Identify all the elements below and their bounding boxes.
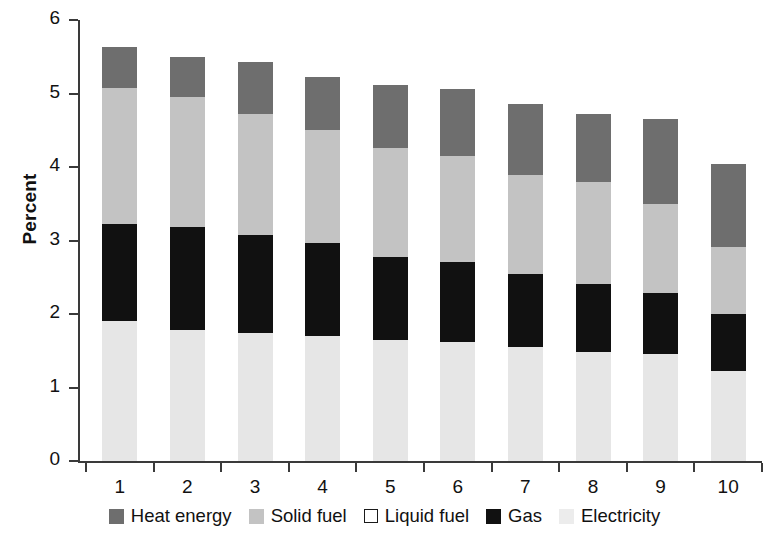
bar-segment-gas[interactable] — [643, 293, 678, 355]
y-axis-tick-label: 6 — [26, 7, 60, 29]
bar-segment-heat-energy[interactable] — [576, 114, 611, 182]
x-axis-tick — [220, 463, 222, 472]
bar-segment-electricity[interactable] — [508, 347, 543, 461]
bar-segment-electricity[interactable] — [643, 354, 678, 461]
x-axis-tick-label: 7 — [520, 476, 531, 498]
stacked-bar[interactable] — [305, 77, 340, 461]
bar-segment-solid-fuel[interactable] — [373, 148, 408, 257]
x-axis-tick — [355, 463, 357, 472]
bar-segment-solid-fuel[interactable] — [576, 182, 611, 283]
x-axis-tick — [491, 463, 493, 472]
y-axis-tick — [69, 240, 78, 242]
bar-segment-heat-energy[interactable] — [440, 89, 475, 156]
y-axis-tick — [69, 460, 78, 462]
legend-item[interactable]: Heat energy — [109, 505, 232, 527]
bar-segment-gas[interactable] — [508, 274, 543, 348]
stacked-bar[interactable] — [102, 47, 137, 461]
bar-segment-heat-energy[interactable] — [238, 62, 273, 114]
y-axis-tick — [69, 313, 78, 315]
x-axis-tick — [693, 463, 695, 472]
bar-segment-electricity[interactable] — [576, 352, 611, 462]
bar-segment-electricity[interactable] — [305, 336, 340, 461]
y-axis-tick-label: 5 — [26, 81, 60, 103]
y-axis-line — [78, 20, 80, 463]
bar-segment-gas[interactable] — [102, 224, 137, 322]
x-axis-tick — [626, 463, 628, 472]
bar-segment-electricity[interactable] — [170, 330, 205, 461]
bar-segment-heat-energy[interactable] — [373, 85, 408, 147]
bar-segment-gas[interactable] — [711, 314, 746, 371]
y-axis-tick — [69, 93, 78, 95]
stacked-bar[interactable] — [373, 85, 408, 461]
bar-segment-gas[interactable] — [576, 284, 611, 352]
legend-item-label: Heat energy — [131, 505, 232, 527]
x-axis-tick-label: 10 — [718, 476, 739, 498]
solid-fuel-swatch-icon — [249, 509, 264, 524]
electricity-swatch-icon — [559, 509, 574, 524]
x-axis-line — [78, 461, 762, 463]
y-axis-tick-label: 0 — [26, 448, 60, 470]
stacked-bar-chart: Percent 0123456 12345678910 Heat energyS… — [0, 0, 769, 541]
x-axis-tick-label: 5 — [385, 476, 396, 498]
bar-segment-heat-energy[interactable] — [711, 164, 746, 247]
bar-segment-solid-fuel[interactable] — [508, 175, 543, 273]
legend-item-label: Electricity — [581, 505, 660, 527]
bar-segment-gas[interactable] — [373, 257, 408, 340]
legend-item-label: Gas — [508, 505, 542, 527]
bar-segment-solid-fuel[interactable] — [238, 114, 273, 235]
bar-segment-gas[interactable] — [440, 262, 475, 342]
stacked-bar[interactable] — [170, 57, 205, 461]
bar-segment-solid-fuel[interactable] — [170, 97, 205, 227]
stacked-bar[interactable] — [576, 114, 611, 461]
bar-segment-heat-energy[interactable] — [305, 77, 340, 131]
x-axis-tick — [85, 463, 87, 472]
bar-segment-electricity[interactable] — [440, 342, 475, 461]
stacked-bar[interactable] — [508, 104, 543, 461]
bar-segment-solid-fuel[interactable] — [102, 88, 137, 224]
bar-segment-solid-fuel[interactable] — [711, 247, 746, 314]
bar-segment-electricity[interactable] — [238, 333, 273, 461]
bar-segment-heat-energy[interactable] — [170, 57, 205, 97]
stacked-bar[interactable] — [711, 164, 746, 461]
y-axis-tick-label: 1 — [26, 375, 60, 397]
bar-segment-electricity[interactable] — [102, 321, 137, 461]
x-axis-tick — [153, 463, 155, 472]
bar-segment-gas[interactable] — [170, 227, 205, 330]
x-axis-tick — [288, 463, 290, 472]
stacked-bar[interactable] — [238, 62, 273, 461]
stacked-bar[interactable] — [643, 119, 678, 461]
x-axis-tick-label: 4 — [317, 476, 328, 498]
bar-segment-solid-fuel[interactable] — [305, 130, 340, 243]
bar-segment-solid-fuel[interactable] — [440, 156, 475, 262]
bar-segment-gas[interactable] — [305, 243, 340, 336]
x-axis-tick-label: 2 — [182, 476, 193, 498]
legend-item[interactable]: Solid fuel — [249, 505, 347, 527]
x-axis-tick-label: 3 — [250, 476, 261, 498]
legend-item[interactable]: Liquid fuel — [364, 505, 469, 527]
y-axis-tick-label: 2 — [26, 301, 60, 323]
y-axis-tick-label: 3 — [26, 228, 60, 250]
legend-item[interactable]: Electricity — [559, 505, 660, 527]
bar-segment-solid-fuel[interactable] — [643, 204, 678, 293]
gas-swatch-icon — [486, 509, 501, 524]
bar-segment-gas[interactable] — [238, 235, 273, 333]
stacked-bar[interactable] — [440, 89, 475, 461]
y-axis-tick — [69, 166, 78, 168]
bar-segment-heat-energy[interactable] — [102, 47, 137, 87]
legend-item-label: Solid fuel — [271, 505, 347, 527]
x-axis-tick-label: 6 — [453, 476, 464, 498]
x-axis-tick — [558, 463, 560, 472]
y-axis-tick — [69, 19, 78, 21]
y-axis-tick — [69, 387, 78, 389]
bar-segment-heat-energy[interactable] — [643, 119, 678, 204]
bar-segment-electricity[interactable] — [711, 371, 746, 461]
x-axis-tick-label: 8 — [588, 476, 599, 498]
x-axis-tick — [761, 463, 763, 472]
bar-segment-heat-energy[interactable] — [508, 104, 543, 175]
legend-item[interactable]: Gas — [486, 505, 542, 527]
x-axis-tick-label: 9 — [655, 476, 666, 498]
x-axis-tick-label: 1 — [115, 476, 126, 498]
bar-segment-electricity[interactable] — [373, 340, 408, 461]
chart-legend: Heat energySolid fuelLiquid fuelGasElect… — [0, 505, 769, 527]
heat-swatch-icon — [109, 509, 124, 524]
